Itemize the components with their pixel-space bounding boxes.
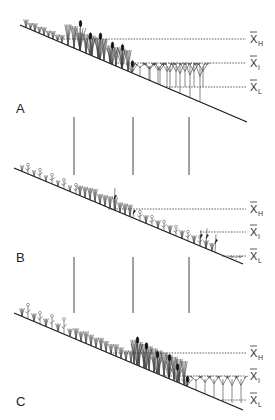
svg-text:L: L: [258, 401, 262, 408]
grass-tuft: [108, 196, 113, 208]
grass-tuft: [118, 202, 123, 212]
svg-text:X: X: [250, 250, 258, 262]
svg-text:I: I: [258, 233, 260, 240]
shore-slope-line: [14, 313, 243, 410]
cattail-spike: [131, 61, 134, 67]
submerged-plant: [234, 376, 248, 403]
svg-text:H: H: [258, 40, 263, 47]
cattail-spike: [121, 44, 124, 50]
forb-plant: [138, 210, 143, 221]
cattail-spike: [99, 33, 102, 39]
forb-plant: [62, 318, 67, 335]
svg-text:X: X: [250, 370, 258, 382]
forb-plant: [150, 215, 155, 226]
forb-flower: [51, 173, 54, 176]
forb-plant: [62, 178, 67, 189]
cattail-spike: [111, 42, 114, 48]
level-label-intermediate: X I: [250, 225, 260, 240]
grass-tuft: [83, 187, 88, 198]
panel-letter-c: C: [16, 394, 25, 409]
submerged-plant: [216, 376, 230, 402]
forb-flower: [27, 303, 30, 306]
forb-flower: [63, 178, 66, 181]
grass-tuft: [113, 197, 118, 210]
grass-tuft: [89, 335, 94, 346]
grass-tuft: [71, 26, 77, 48]
grass-tuft: [114, 344, 119, 356]
submerged-plant: [207, 376, 221, 398]
forb-plant: [50, 173, 55, 184]
svg-text:X: X: [250, 347, 258, 359]
grass-tuft: [74, 328, 79, 339]
svg-text:X: X: [250, 203, 258, 215]
svg-text:I: I: [258, 377, 260, 384]
forb-flower: [51, 314, 54, 317]
grass-tuft: [78, 186, 83, 196]
cattail-spike: [168, 354, 171, 360]
panel-letter-a: A: [16, 101, 25, 116]
shore-slope-line: [20, 25, 247, 122]
grass-tuft: [104, 341, 109, 352]
submerged-plant: [169, 63, 183, 87]
submerged-plant: [196, 63, 210, 87]
forb-flower: [27, 163, 30, 166]
svg-text:X: X: [250, 33, 258, 45]
grass-tuft: [94, 338, 99, 348]
grass-tuft: [128, 205, 133, 217]
level-label-high: X H: [250, 32, 263, 47]
level-label-intermediate: X I: [250, 369, 260, 384]
forb-flower: [151, 215, 154, 218]
grass-tuft: [103, 195, 108, 206]
level-label-high: X H: [250, 202, 263, 217]
submerged-plant: [187, 63, 201, 87]
svg-text:L: L: [258, 257, 262, 264]
transition-a-to-b: [74, 117, 189, 175]
forb-flower: [163, 220, 166, 223]
cattail-spike: [79, 20, 82, 26]
transition-b-to-c: [74, 257, 189, 313]
forb-flower: [187, 230, 190, 233]
svg-text:X: X: [250, 81, 258, 93]
svg-text:X: X: [250, 226, 258, 238]
vegetation-panel-b: [20, 163, 243, 260]
submerged-plant: [193, 63, 207, 102]
cattail-spike: [145, 343, 148, 349]
forb-flower: [39, 168, 42, 171]
grass-tuft: [79, 331, 84, 341]
emergent-head: [133, 210, 136, 214]
grass-tuft: [124, 350, 129, 360]
panel-c: X H X I X L C: [14, 303, 263, 410]
svg-text:X: X: [250, 57, 258, 69]
wetland-vegetation-diagram: X H X I X L A X H X: [0, 0, 275, 420]
forb-plant: [50, 314, 55, 329]
level-label-low: X L: [250, 80, 262, 95]
cattail-spike: [176, 364, 179, 370]
level-label-low: X L: [250, 393, 262, 408]
forb-flower: [175, 225, 178, 228]
forb-plant: [26, 303, 31, 319]
grass-tuft: [109, 344, 114, 354]
svg-text:L: L: [258, 88, 262, 95]
dark-emergent-plant: [206, 228, 209, 248]
panel-a: X H X I X L A: [16, 20, 263, 122]
panel-letter-b: B: [16, 250, 25, 265]
grass-tuft: [88, 188, 93, 200]
forb-plant: [162, 220, 167, 231]
forb-flower: [139, 210, 142, 213]
shore-slope-line: [14, 168, 243, 264]
grass-tuft: [84, 331, 89, 343]
grass-tuft: [99, 338, 104, 350]
forb-plant: [174, 225, 179, 236]
svg-text:I: I: [258, 64, 260, 71]
grass-tuft: [101, 39, 107, 61]
grass-tuft: [65, 25, 71, 46]
level-label-intermediate: X I: [250, 56, 260, 71]
vegetation-panel-a: [24, 20, 210, 102]
grass-tuft: [98, 194, 103, 204]
cattail-spike: [89, 33, 92, 39]
level-label-low: X L: [250, 249, 262, 264]
cattail-spike: [156, 351, 159, 357]
forb-plant: [26, 163, 31, 174]
submerged-plant: [160, 63, 174, 87]
forb-flower: [39, 311, 42, 314]
